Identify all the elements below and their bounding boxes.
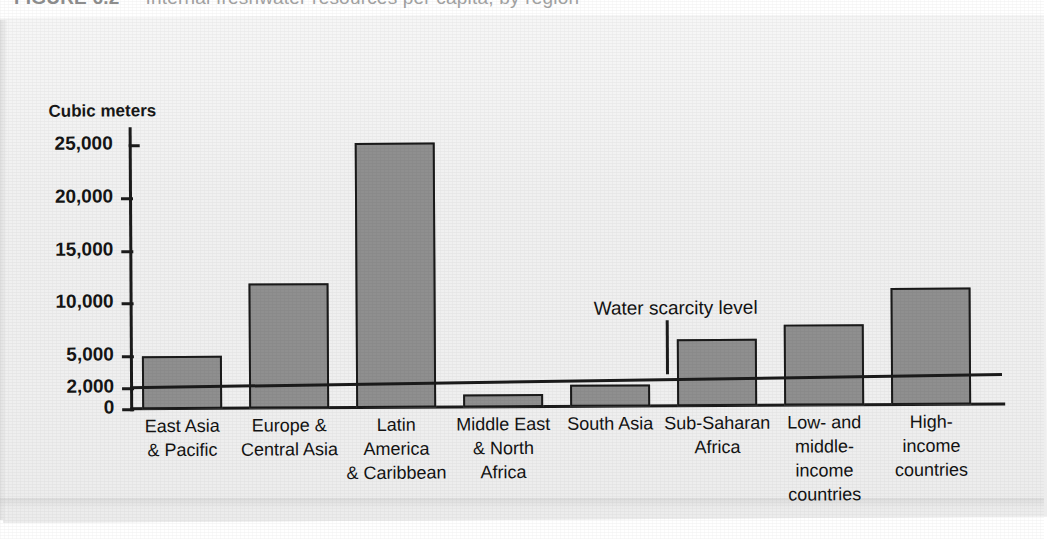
bar-low-and-middle-income-countries xyxy=(784,324,864,406)
category-label-1: Europe &Central Asia xyxy=(232,414,346,463)
category-label-line: income xyxy=(767,459,881,484)
y-tick-label-15000: 15,000 xyxy=(17,238,113,261)
category-label-line: Low- and xyxy=(767,411,881,436)
category-label-line: & North xyxy=(446,437,560,462)
bar-chart: Cubic meters 25,00020,00015,00010,0005,0… xyxy=(0,12,1047,523)
bar-sub-saharan-africa xyxy=(677,339,757,406)
bar-middle-east-north-africa xyxy=(463,394,543,407)
category-label-line: Latin xyxy=(339,413,453,438)
category-label-4: South Asia xyxy=(553,412,667,437)
category-label-line: income xyxy=(874,434,988,459)
category-label-line: & Caribbean xyxy=(339,461,453,486)
category-label-0: East Asia& Pacific xyxy=(125,415,239,464)
y-axis-line xyxy=(129,127,134,411)
y-tick-label-5000: 5,000 xyxy=(18,344,114,367)
bar-latin-america-caribbean xyxy=(355,143,436,408)
water-scarcity-label: Water scarcity level xyxy=(594,297,758,320)
y-tick-15000 xyxy=(121,250,133,253)
category-label-3: Middle East& NorthAfrica xyxy=(446,413,560,485)
category-label-line: middle- xyxy=(767,435,881,460)
figure-caption-text: Internal freshwater resources per capita… xyxy=(145,0,579,8)
category-label-5: Sub-SaharanAfrica xyxy=(660,412,774,461)
y-tick-label-25000: 25,000 xyxy=(17,132,113,155)
category-label-7: High-incomecountries xyxy=(874,410,988,482)
figure-caption-number: FIGURE 6.2 xyxy=(14,0,119,8)
category-label-line: High- xyxy=(874,410,988,435)
y-tick-25000 xyxy=(129,144,140,147)
y-tick-label-0: 0 xyxy=(18,396,114,419)
y-tick-10000 xyxy=(122,303,134,306)
bar-south-asia xyxy=(570,384,650,407)
category-label-6: Low- andmiddle-incomecountries xyxy=(767,411,882,507)
category-label-line: & Pacific xyxy=(125,439,239,464)
bar-high-income-countries xyxy=(891,287,972,405)
category-label-line: America xyxy=(339,437,453,462)
y-tick-0 xyxy=(122,408,134,411)
y-tick-5000 xyxy=(122,355,134,358)
y-tick-label-2000: 2,000 xyxy=(18,375,114,398)
water-scarcity-leader-line xyxy=(666,320,669,374)
y-axis-title: Cubic meters xyxy=(48,101,156,122)
category-label-line: South Asia xyxy=(553,412,667,437)
category-label-line: East Asia xyxy=(125,415,239,440)
category-label-line: countries xyxy=(768,483,882,508)
y-tick-label-20000: 20,000 xyxy=(17,185,113,208)
bar-east-asia-pacific xyxy=(142,356,222,409)
bar-europe-central-asia xyxy=(248,284,329,409)
category-label-line: Middle East xyxy=(446,413,560,438)
category-label-line: countries xyxy=(874,458,988,483)
category-label-line: Africa xyxy=(446,461,560,486)
y-tick-label-10000: 10,000 xyxy=(18,291,114,314)
category-label-line: Europe & xyxy=(232,414,346,439)
y-tick-20000 xyxy=(121,197,133,200)
category-label-line: Africa xyxy=(660,436,774,461)
category-label-line: Sub-Saharan xyxy=(660,412,774,437)
category-label-line: Central Asia xyxy=(232,438,346,463)
category-label-2: LatinAmerica& Caribbean xyxy=(339,413,453,485)
